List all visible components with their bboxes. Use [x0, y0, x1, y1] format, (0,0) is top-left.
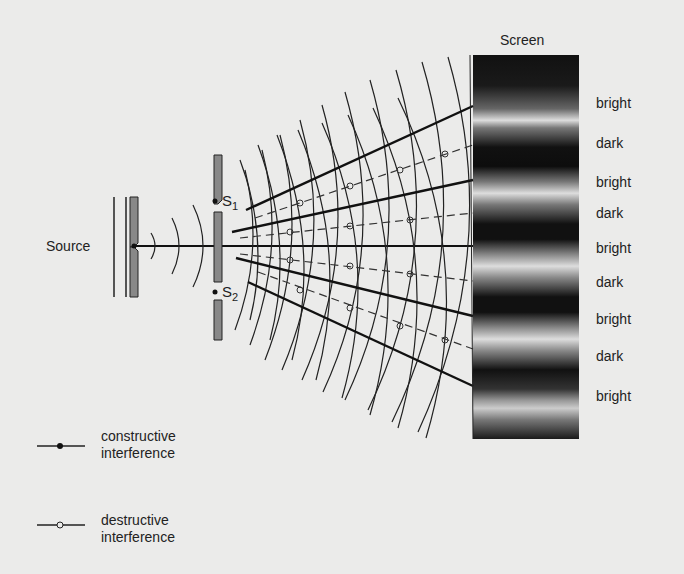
fringe-label: dark — [596, 205, 623, 221]
legend-constructive: constructiveinterference — [101, 428, 176, 462]
slit1-label: S1 — [222, 192, 238, 212]
fringe-label: bright — [596, 388, 631, 404]
fringe-label: dark — [596, 348, 623, 364]
fringe-label: bright — [596, 240, 631, 256]
interference-diagram — [0, 0, 684, 574]
source-label: Source — [46, 238, 90, 254]
screen-label: Screen — [500, 32, 544, 48]
fringe-label: bright — [596, 95, 631, 111]
legend-destructive: destructiveinterference — [101, 512, 175, 546]
slit2-label: S2 — [222, 283, 238, 303]
fringe-label: dark — [596, 274, 623, 290]
fringe-label: bright — [596, 174, 631, 190]
fringe-label: bright — [596, 311, 631, 327]
fringe-label: dark — [596, 135, 623, 151]
